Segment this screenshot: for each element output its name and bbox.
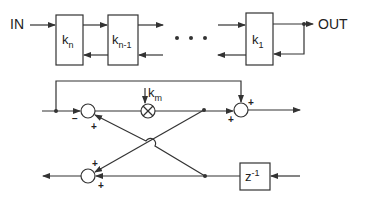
stage-k1-label: k1 <box>252 33 264 50</box>
stage-kn-1-label: kn-1 <box>112 33 132 50</box>
delay-label: z-1 <box>245 169 260 183</box>
right-summer <box>234 103 248 117</box>
diagram-canvas <box>0 0 365 203</box>
input-label: IN <box>10 17 24 31</box>
bottom-summer <box>81 169 95 183</box>
sign-plus: + <box>228 115 234 125</box>
sign-plus: + <box>248 98 254 108</box>
sign-plus: + <box>98 181 104 191</box>
sign-plus: + <box>91 122 97 132</box>
stage-kn-label: kn <box>62 33 74 50</box>
sign-plus: + <box>92 159 98 169</box>
coefficient-km-label: km <box>148 86 162 103</box>
top-summer <box>81 104 95 118</box>
output-label: OUT <box>318 17 348 31</box>
sign-minus: − <box>72 114 78 124</box>
